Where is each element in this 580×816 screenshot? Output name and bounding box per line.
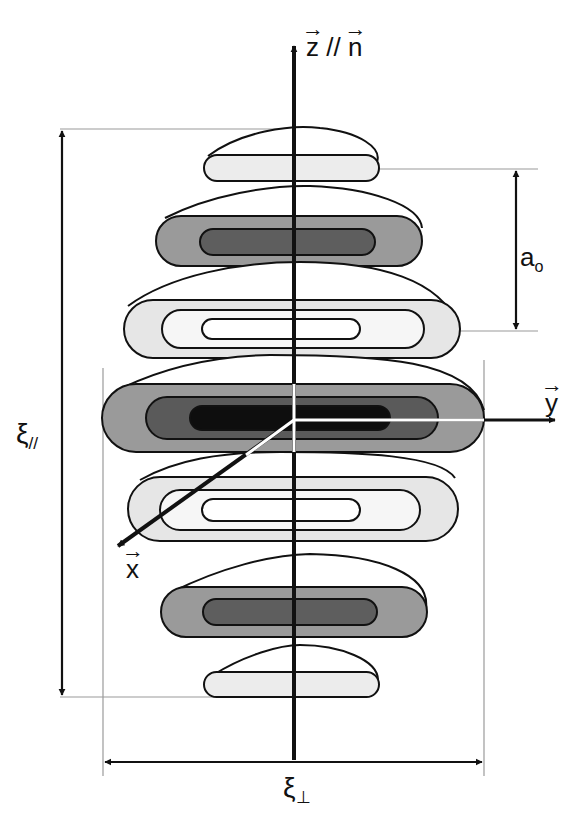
layer-1-lobe bbox=[204, 127, 379, 181]
layer-2-lobe bbox=[156, 186, 422, 266]
a0-label: ao bbox=[520, 244, 543, 274]
z-axis-label: z // n bbox=[306, 34, 362, 60]
layered-ellipsoid-diagram bbox=[0, 0, 580, 816]
x-axis-label: x bbox=[126, 556, 139, 582]
y-axis-label: y bbox=[545, 390, 558, 416]
xi-parallel-label: ξ// bbox=[16, 420, 38, 452]
xi-perp-label: ξ⊥ bbox=[283, 774, 311, 806]
layer-7-lobe bbox=[204, 645, 379, 697]
